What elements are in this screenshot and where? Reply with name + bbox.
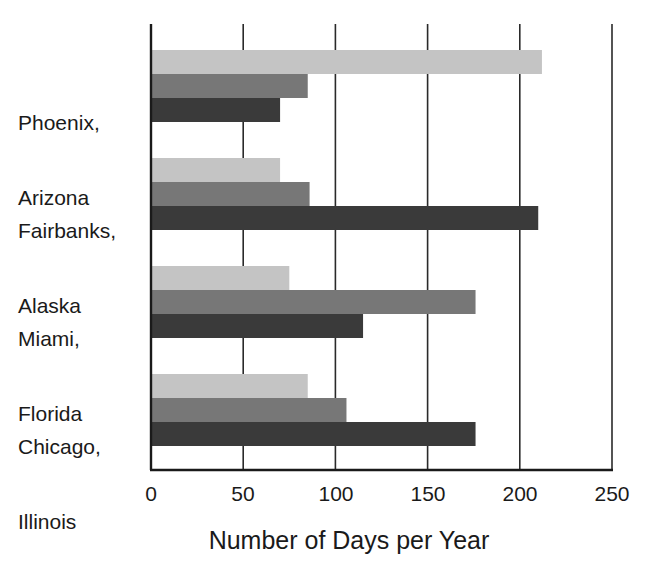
x-tick-label: 250 bbox=[594, 482, 629, 506]
bar bbox=[151, 74, 308, 98]
x-tick-label: 50 bbox=[231, 482, 254, 506]
x-tick-label: 150 bbox=[410, 482, 445, 506]
category-label-line: Fairbanks, bbox=[18, 218, 116, 243]
bar bbox=[151, 398, 346, 422]
bar bbox=[151, 290, 476, 314]
category-label-line: Chicago, bbox=[18, 434, 101, 459]
bar bbox=[151, 158, 280, 182]
bar bbox=[151, 266, 289, 290]
bar bbox=[151, 314, 363, 338]
category-label-line: Phoenix, bbox=[18, 110, 100, 135]
x-tick-label: 200 bbox=[502, 482, 537, 506]
bar bbox=[151, 182, 310, 206]
horizontal-bar-chart: Phoenix, Arizona Fairbanks, Alaska Miami… bbox=[0, 0, 648, 572]
x-tick-label: 0 bbox=[145, 482, 157, 506]
category-label-line: Miami, bbox=[18, 326, 82, 351]
bar bbox=[151, 206, 538, 230]
bar bbox=[151, 374, 308, 398]
bar bbox=[151, 50, 542, 74]
x-axis-title: Number of Days per Year bbox=[0, 526, 648, 555]
bar bbox=[151, 422, 476, 446]
x-tick-label: 100 bbox=[318, 482, 353, 506]
bar bbox=[151, 98, 280, 122]
